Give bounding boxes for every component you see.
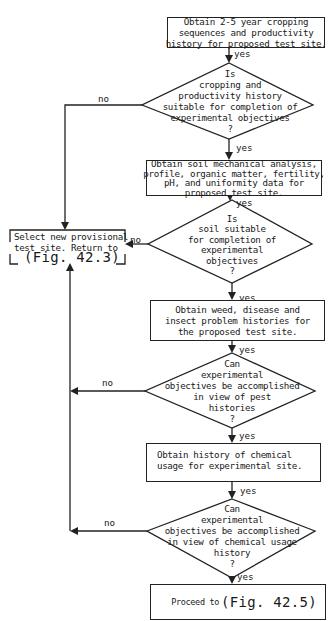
decision-text-line: objectives be accomplished: [165, 525, 300, 536]
step-text-line: sequences and productivity: [179, 27, 314, 38]
proceed-label: Proceed to: [171, 597, 219, 608]
decision-text-line: experimental: [201, 245, 263, 256]
decision-text-line: Can: [224, 358, 240, 369]
step-select-new-site: Select new provisional test site. Return…: [10, 231, 125, 265]
decision-text-line: ?: [229, 266, 234, 277]
step-obtain-cropping-history: Obtain 2-5 year cropping sequences and p…: [167, 17, 325, 48]
decision-cropping-suitable: Is cropping and productivity history sui…: [150, 64, 310, 138]
step-text-line: Obtain history of chemical: [157, 449, 292, 460]
edge-label-yes: yes: [237, 572, 254, 582]
step-text-line: Select new provisional: [14, 231, 125, 242]
edge-label-no: no: [102, 378, 113, 388]
figure-reference: (Fig. 42.3): [24, 250, 120, 264]
decision-text-line: suitable for completion of: [163, 101, 298, 112]
decision-text-line: experimental: [201, 369, 263, 380]
edge-label-yes: yes: [239, 431, 256, 441]
decision-text-line: histories: [209, 402, 256, 413]
decision-text-line: Is: [225, 68, 235, 79]
decision-text-line: cropping and: [199, 79, 261, 90]
edge-label-yes: yes: [236, 198, 253, 208]
step-text-line: the proposed test site.: [178, 326, 297, 337]
decision-text-line: productivity history: [178, 90, 282, 101]
edge-label-yes: yes: [236, 143, 253, 153]
step-text-line: proposed test site.: [185, 188, 283, 198]
decision-soil-suitable: Is soil suitable for completion of exper…: [170, 212, 294, 278]
step-text-line: insect problem histories for: [165, 315, 310, 326]
decision-text-line: ?: [229, 558, 234, 569]
figure-reference: (Fig. 42.5): [221, 597, 317, 608]
step-text-line: Obtain weed, disease and: [175, 304, 299, 315]
decision-pest-histories: Can experimental objectives be accomplis…: [150, 356, 314, 426]
edge-label-no: no: [98, 94, 109, 104]
step-obtain-pest-histories: Obtain weed, disease and insect problem …: [150, 300, 325, 341]
decision-text-line: in view of pest: [193, 391, 271, 402]
decision-text-line: ?: [229, 413, 234, 424]
step-obtain-soil-data: Obtain soil mechanical analysis, profile…: [146, 160, 322, 196]
decision-text-line: Can: [224, 503, 240, 514]
edge-label-no: no: [130, 235, 141, 245]
decision-text-line: ?: [227, 123, 232, 134]
decision-text-line: history: [214, 547, 250, 558]
decision-chemical-usage: Can experimental objectives be accomplis…: [150, 500, 314, 572]
step-obtain-chemical-history: Obtain history of chemical usage for exp…: [146, 443, 321, 482]
step-proceed: Proceed to (Fig. 42.5): [150, 584, 326, 620]
decision-text-line: experimental: [201, 514, 263, 525]
edge-label-yes: yes: [239, 345, 256, 355]
step-text-line: Obtain 2-5 year cropping: [184, 16, 308, 27]
edge-label-yes: yes: [234, 49, 251, 59]
edge-label-no: no: [104, 518, 115, 528]
step-text-line: usage for experimental site.: [157, 460, 302, 471]
decision-text-line: experimental objectives: [170, 112, 289, 123]
decision-text-line: in view of chemical usage: [167, 536, 297, 547]
decision-text-line: objectives be accomplished: [165, 380, 300, 391]
edge-label-yes: yes: [240, 486, 257, 496]
decision-text-line: soil suitable: [198, 224, 265, 235]
